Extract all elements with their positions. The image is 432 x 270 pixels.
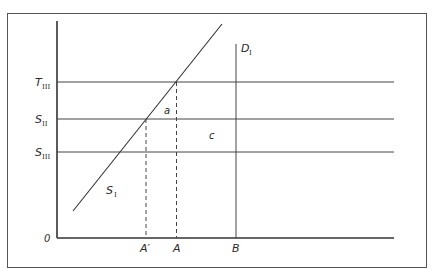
label-t3: T III bbox=[35, 76, 51, 91]
svg-text:S: S bbox=[35, 113, 42, 126]
label-s3: S III bbox=[35, 146, 51, 161]
label-b: B bbox=[232, 242, 240, 255]
svg-text:III: III bbox=[42, 83, 51, 91]
region-label-c: c bbox=[209, 130, 215, 141]
diagram-frame bbox=[8, 14, 427, 268]
svg-text:II: II bbox=[42, 120, 48, 128]
label-a: A bbox=[172, 242, 181, 255]
svg-text:I: I bbox=[249, 49, 252, 57]
svg-text:I: I bbox=[114, 191, 117, 199]
label-s1: S I bbox=[106, 184, 117, 199]
label-s2: S II bbox=[35, 113, 48, 128]
region-label-a: a bbox=[164, 105, 170, 116]
supply-curve-s1 bbox=[73, 24, 222, 211]
label-a-prime: A′ bbox=[139, 242, 151, 255]
svg-text:S: S bbox=[35, 146, 42, 159]
svg-text:S: S bbox=[106, 184, 113, 197]
label-origin: 0 bbox=[44, 233, 50, 244]
diagram-canvas: T III S II S III 0 A′ A B S I D I a c bbox=[0, 0, 432, 270]
svg-text:III: III bbox=[42, 153, 51, 161]
label-d1: D I bbox=[241, 42, 252, 57]
